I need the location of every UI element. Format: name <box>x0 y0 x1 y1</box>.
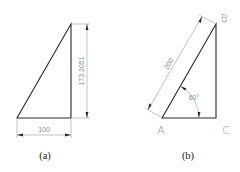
vertical-dimension-label: 173.2051 <box>78 56 85 85</box>
arrow-up-icon <box>86 24 89 30</box>
angle-arrow-end-icon <box>198 112 201 118</box>
caption-b: (b) <box>182 150 195 162</box>
triangle-b <box>162 24 216 118</box>
hypotenuse-dimension-label: 200 <box>163 57 175 71</box>
hypotenuse-dimension: 200 <box>145 15 215 117</box>
horizontal-dimension-label: 100 <box>38 126 50 133</box>
triangle-a <box>17 24 71 118</box>
arrow-left-icon <box>17 134 23 137</box>
figure-b: 200 60° A B C (b) <box>145 12 230 162</box>
diagram-canvas: 173.2051 100 (a) 200 <box>0 0 240 172</box>
horizontal-dimension: 100 <box>17 119 71 138</box>
vertex-a-label: A <box>157 124 165 137</box>
figure-a: 173.2051 100 (a) <box>17 24 90 162</box>
arrow-down-icon <box>86 112 89 118</box>
arrow-right-icon <box>65 134 71 137</box>
vertex-b-label: B <box>220 12 227 25</box>
caption-a: (a) <box>39 150 51 162</box>
angle-dimension: 60° <box>181 86 201 118</box>
angle-label: 60° <box>189 94 200 101</box>
vertical-dimension: 173.2051 <box>72 24 90 118</box>
vertex-c-label: C <box>222 124 230 137</box>
